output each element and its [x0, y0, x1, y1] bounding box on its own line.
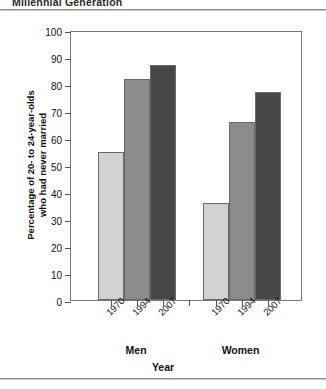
- bar: [255, 92, 281, 300]
- y-axis-tick: [65, 248, 71, 249]
- y-axis-label-line-2: who had never married: [37, 55, 49, 275]
- bar: [98, 152, 124, 301]
- running-header: Millennial Generation: [0, 0, 326, 9]
- x-axis-label: Year: [0, 361, 326, 373]
- bars-container: [71, 32, 301, 300]
- y-axis-label: Percentage of 20- to 24-year-olds who ha…: [25, 55, 49, 275]
- plot-area: 0102030405060708090100: [70, 31, 302, 301]
- y-axis-tick: [65, 167, 71, 168]
- y-axis-tick: [65, 86, 71, 87]
- y-axis-tick-label: 80: [51, 81, 62, 92]
- running-header-text: Millennial Generation: [12, 0, 122, 8]
- y-axis-tick-label: 40: [51, 189, 62, 200]
- y-axis-tick-label: 90: [51, 54, 62, 65]
- x-axis-group-label: Women: [222, 344, 260, 356]
- bar: [124, 79, 150, 300]
- y-axis-tick: [65, 32, 71, 33]
- y-axis-tick-label: 30: [51, 216, 62, 227]
- y-axis-tick-label: 10: [51, 270, 62, 281]
- y-axis-tick: [65, 140, 71, 141]
- x-axis-group-separator-tick: [189, 300, 190, 306]
- y-axis-tick: [65, 302, 71, 303]
- y-axis-tick-label: 70: [51, 108, 62, 119]
- y-axis-tick: [65, 275, 71, 276]
- y-axis-tick: [65, 59, 71, 60]
- y-axis-tick-label: 20: [51, 243, 62, 254]
- bar-chart-figure: Percentage of 20- to 24-year-olds who ha…: [0, 11, 326, 378]
- y-axis-tick-label: 60: [51, 135, 62, 146]
- y-axis-tick: [65, 221, 71, 222]
- y-axis-tick: [65, 113, 71, 114]
- y-axis-tick-label: 100: [45, 27, 62, 38]
- bar: [150, 65, 176, 300]
- y-axis-tick: [65, 194, 71, 195]
- y-axis-label-line-1: Percentage of 20- to 24-year-olds: [25, 55, 37, 275]
- footer-rule: [0, 378, 326, 380]
- x-axis-group-label: Men: [126, 344, 147, 356]
- bar: [203, 203, 229, 300]
- y-axis-tick-label: 50: [51, 162, 62, 173]
- y-axis-tick-label: 0: [56, 297, 62, 308]
- bar: [229, 122, 255, 300]
